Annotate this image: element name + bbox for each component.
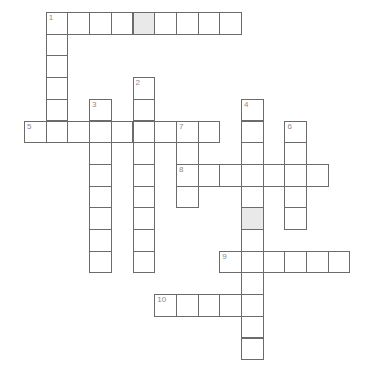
crossword-cell[interactable]: [241, 142, 264, 165]
crossword-cell[interactable]: [284, 186, 307, 209]
crossword-cell[interactable]: 4: [241, 99, 264, 122]
crossword-cell[interactable]: [89, 142, 112, 165]
crossword-cell[interactable]: [219, 294, 242, 317]
crossword-cell[interactable]: [198, 121, 221, 144]
crossword-cell[interactable]: [133, 251, 156, 274]
crossword-cell[interactable]: [133, 99, 156, 122]
crossword-cell[interactable]: [219, 164, 242, 187]
crossword-cell[interactable]: [89, 229, 112, 252]
crossword-cell[interactable]: [133, 164, 156, 187]
crossword-cell[interactable]: [89, 251, 112, 274]
crossword-cell[interactable]: [241, 294, 264, 317]
crossword-cell[interactable]: [111, 12, 134, 35]
crossword-cell[interactable]: [241, 316, 264, 339]
crossword-cell[interactable]: [198, 164, 221, 187]
crossword-cell[interactable]: [241, 272, 264, 295]
crossword-cell[interactable]: [89, 164, 112, 187]
crossword-cell[interactable]: [263, 251, 286, 274]
crossword-cell[interactable]: [284, 251, 307, 274]
crossword-grid: 12345768910: [0, 0, 374, 371]
crossword-cell[interactable]: 9: [219, 251, 242, 274]
crossword-cell[interactable]: [241, 164, 264, 187]
crossword-cell[interactable]: [89, 186, 112, 209]
crossword-cell[interactable]: [154, 121, 177, 144]
crossword-cell[interactable]: 1: [46, 12, 69, 35]
crossword-cell[interactable]: [176, 294, 199, 317]
crossword-cell[interactable]: [133, 121, 156, 144]
crossword-cell[interactable]: [176, 12, 199, 35]
crossword-cell[interactable]: [89, 12, 112, 35]
crossword-cell[interactable]: 10: [154, 294, 177, 317]
clue-number: 6: [287, 123, 291, 131]
clue-number: 9: [222, 253, 226, 261]
crossword-cell[interactable]: [241, 251, 264, 274]
crossword-cell[interactable]: [241, 229, 264, 252]
crossword-cell[interactable]: [111, 121, 134, 144]
clue-number: 1: [49, 14, 53, 22]
crossword-cell[interactable]: [176, 142, 199, 165]
clue-number: 4: [244, 101, 248, 109]
crossword-cell[interactable]: [133, 229, 156, 252]
clue-number: 5: [27, 123, 31, 131]
clue-number: 8: [179, 166, 183, 174]
crossword-cell[interactable]: [306, 164, 329, 187]
crossword-cell[interactable]: 5: [24, 121, 47, 144]
crossword-cell[interactable]: [89, 121, 112, 144]
crossword-cell[interactable]: [198, 294, 221, 317]
crossword-cell[interactable]: [219, 12, 242, 35]
crossword-cell[interactable]: [46, 34, 69, 57]
crossword-cell[interactable]: 8: [176, 164, 199, 187]
crossword-cell[interactable]: 2: [133, 77, 156, 100]
crossword-cell[interactable]: [241, 186, 264, 209]
clue-number: 3: [92, 101, 96, 109]
crossword-cell[interactable]: [46, 121, 69, 144]
crossword-cell[interactable]: [284, 164, 307, 187]
crossword-cell[interactable]: [46, 77, 69, 100]
crossword-cell[interactable]: [198, 12, 221, 35]
crossword-cell[interactable]: [241, 207, 264, 230]
crossword-cell[interactable]: [306, 251, 329, 274]
crossword-cell[interactable]: [133, 186, 156, 209]
crossword-cell[interactable]: [46, 55, 69, 78]
crossword-cell[interactable]: 6: [284, 121, 307, 144]
clue-number: 2: [136, 79, 140, 87]
clue-number: 10: [157, 296, 166, 304]
crossword-cell[interactable]: [67, 12, 90, 35]
crossword-cell[interactable]: [67, 121, 90, 144]
crossword-cell[interactable]: [133, 142, 156, 165]
crossword-cell[interactable]: [89, 207, 112, 230]
crossword-cell[interactable]: [133, 207, 156, 230]
crossword-cell[interactable]: [284, 207, 307, 230]
crossword-cell[interactable]: 7: [176, 121, 199, 144]
crossword-cell[interactable]: [284, 142, 307, 165]
crossword-cell[interactable]: [241, 121, 264, 144]
crossword-cell[interactable]: [46, 99, 69, 122]
crossword-cell[interactable]: [241, 338, 264, 361]
crossword-cell[interactable]: [133, 12, 156, 35]
crossword-cell[interactable]: [176, 186, 199, 209]
crossword-cell[interactable]: [263, 164, 286, 187]
crossword-cell[interactable]: [154, 12, 177, 35]
crossword-cell[interactable]: [328, 251, 351, 274]
clue-number: 7: [179, 123, 183, 131]
crossword-cell[interactable]: 3: [89, 99, 112, 122]
